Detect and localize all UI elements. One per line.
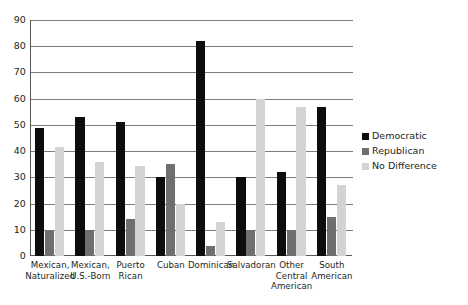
bar bbox=[35, 128, 44, 256]
y-axis-tick-label: 30 bbox=[0, 172, 26, 182]
bar-group bbox=[112, 20, 152, 256]
bar bbox=[246, 230, 255, 256]
bar bbox=[236, 177, 245, 256]
bar-group bbox=[71, 20, 111, 256]
bar bbox=[327, 217, 336, 256]
bar bbox=[296, 107, 305, 256]
legend-swatch-icon bbox=[362, 133, 369, 140]
bar bbox=[256, 99, 265, 256]
category-label-line: American bbox=[264, 281, 320, 292]
bar bbox=[196, 41, 205, 256]
bar bbox=[116, 122, 125, 256]
bar-chart: 0102030405060708090 Mexican,NaturalizedM… bbox=[0, 0, 468, 305]
bar bbox=[176, 204, 185, 256]
chart-legend: DemocraticRepublicanNo Difference bbox=[362, 129, 466, 174]
legend-label: Democratic bbox=[372, 131, 427, 141]
legend-item[interactable]: Democratic bbox=[362, 129, 466, 143]
y-axis-tick-label: 80 bbox=[0, 41, 26, 51]
plot-area bbox=[30, 20, 352, 256]
y-axis-tick-label: 40 bbox=[0, 146, 26, 156]
bar bbox=[216, 222, 225, 256]
bar-group bbox=[273, 20, 313, 256]
bar bbox=[85, 230, 94, 256]
bar-group bbox=[313, 20, 353, 256]
bar bbox=[55, 147, 64, 256]
y-axis-tick-label: 20 bbox=[0, 199, 26, 209]
x-axis-category-label: SouthAmerican bbox=[304, 260, 360, 281]
category-label-line: American bbox=[304, 271, 360, 282]
bar-group bbox=[192, 20, 232, 256]
legend-label: No Difference bbox=[372, 161, 437, 171]
y-axis-tick-label: 60 bbox=[0, 94, 26, 104]
bar-group bbox=[232, 20, 272, 256]
category-label-line: South bbox=[304, 260, 360, 271]
legend-item[interactable]: No Difference bbox=[362, 159, 466, 173]
y-axis-tick-label: 50 bbox=[0, 120, 26, 130]
bar bbox=[126, 219, 135, 256]
bar-group bbox=[152, 20, 192, 256]
legend-swatch-icon bbox=[362, 148, 369, 155]
category-label-line: Rican bbox=[103, 271, 159, 282]
bar bbox=[277, 172, 286, 256]
legend-item[interactable]: Republican bbox=[362, 144, 466, 158]
bar bbox=[166, 164, 175, 256]
bar bbox=[45, 231, 54, 256]
bars-layer bbox=[31, 20, 353, 256]
bar bbox=[317, 107, 326, 256]
bar bbox=[206, 246, 215, 256]
bar bbox=[337, 185, 346, 256]
legend-swatch-icon bbox=[362, 163, 369, 170]
bar bbox=[95, 162, 104, 256]
bar bbox=[75, 117, 84, 256]
y-axis-tick-label: 10 bbox=[0, 225, 26, 235]
bar-group bbox=[31, 20, 71, 256]
bar bbox=[156, 177, 165, 256]
bar bbox=[287, 230, 296, 256]
y-axis-tick-label: 90 bbox=[0, 15, 26, 25]
legend-label: Republican bbox=[372, 146, 424, 156]
y-axis-tick-label: 70 bbox=[0, 67, 26, 77]
bar bbox=[135, 166, 144, 256]
